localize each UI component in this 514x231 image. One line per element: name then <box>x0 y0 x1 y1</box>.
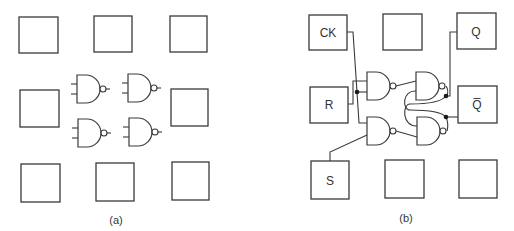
panel-a-caption: (a) <box>109 214 122 226</box>
panel-b-caption: (b) <box>399 212 412 224</box>
junction-dot <box>444 115 449 120</box>
label-s: S <box>326 174 334 188</box>
label-q-bar: Q̅ <box>472 98 481 112</box>
nand-gate-icon <box>71 75 110 103</box>
nand-gate-icon <box>122 74 161 102</box>
pad-b-2 <box>383 14 422 50</box>
pad-a-7 <box>21 164 60 202</box>
pad-a-2 <box>94 16 132 52</box>
pad-a-3 <box>170 16 207 52</box>
label-r: R <box>325 98 334 112</box>
nand-gate-icon <box>123 118 162 146</box>
pad-b-9 <box>459 160 497 198</box>
pad-a-9 <box>172 162 209 200</box>
wires <box>330 32 458 161</box>
wire-r-to-q <box>396 81 416 86</box>
panel-b: CK Q R Q̅ S <box>309 13 497 224</box>
pad-a-6 <box>171 89 208 126</box>
label-ck: CK <box>320 26 337 40</box>
junction-dot <box>444 94 449 99</box>
wire-s-to-qbar <box>396 131 417 137</box>
nand-gate-qbar-icon <box>417 117 446 145</box>
panel-a: (a) <box>19 16 209 226</box>
pad-a-4 <box>20 90 59 127</box>
label-q: Q <box>471 25 480 39</box>
wire-s <box>330 135 367 161</box>
pad-a-1 <box>19 17 58 53</box>
pad-b-8 <box>385 160 424 198</box>
wire-ck <box>347 32 367 123</box>
nand-gate-q-icon <box>416 72 445 100</box>
pad-a-8 <box>96 163 134 201</box>
wire-q-pad <box>447 32 457 96</box>
nand-gate-s-icon <box>367 117 396 145</box>
nand-gate-icon <box>72 119 111 147</box>
nand-gate-r-icon <box>367 72 396 100</box>
junction-dot <box>355 90 360 95</box>
circuit-layout-figure: (a) CK Q R Q̅ S <box>0 0 514 231</box>
